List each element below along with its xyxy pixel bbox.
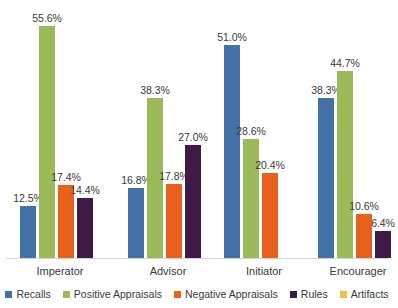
legend-swatch-icon — [340, 291, 347, 298]
bar-slot: 6.4% — [375, 0, 391, 258]
bar-group-bars: 12.5%55.6%17.4%14.4% — [20, 0, 100, 258]
bar-slot: 55.6% — [39, 0, 55, 258]
legend-label: Recalls — [16, 288, 50, 300]
legend-item[interactable]: Positive Appraisals — [63, 288, 162, 300]
legend-label: Artifacts — [351, 288, 389, 300]
bar[interactable]: 38.3% — [318, 98, 334, 258]
bar-group: 12.5%55.6%17.4%14.4% — [20, 0, 100, 258]
bar-slot — [294, 0, 304, 258]
bar-slot: 16.8% — [128, 0, 144, 258]
bar[interactable]: 6.4% — [375, 231, 391, 258]
bar-slot: 28.6% — [243, 0, 259, 258]
bar-slot — [281, 0, 291, 258]
legend-swatch-icon — [174, 291, 181, 298]
legend-swatch-icon — [5, 291, 12, 298]
legend-item[interactable]: Recalls — [5, 288, 50, 300]
category-label-imperator: Imperator — [20, 262, 100, 280]
x-axis-line — [6, 258, 388, 259]
bar-group: 16.8%38.3%17.8%27.0% — [128, 0, 208, 258]
category-label-advisor: Advisor — [128, 262, 208, 280]
bar-slot: 17.4% — [58, 0, 74, 258]
bar-slot — [394, 0, 398, 258]
bar-group: 38.3%44.7%10.6%6.4% — [318, 0, 398, 258]
legend-label: Positive Appraisals — [74, 288, 162, 300]
legend-label: Negative Appraisals — [185, 288, 278, 300]
bar-slot: 20.4% — [262, 0, 278, 258]
bar[interactable]: 10.6% — [356, 214, 372, 258]
bar[interactable]: 12.5% — [20, 206, 36, 258]
bar[interactable]: 16.8% — [128, 188, 144, 258]
bar-slot: 17.8% — [166, 0, 182, 258]
bar[interactable]: 17.4% — [58, 185, 74, 258]
legend-item[interactable]: Rules — [290, 288, 328, 300]
bar-slot: 44.7% — [337, 0, 353, 258]
bar-slot — [96, 0, 100, 258]
category-axis-labels: ImperatorAdvisorInitiatorEncourager — [0, 262, 394, 282]
bar[interactable]: 20.4% — [262, 173, 278, 258]
bar[interactable]: 55.6% — [39, 26, 55, 258]
chart-legend: RecallsPositive AppraisalsNegative Appra… — [0, 285, 394, 303]
bar-group: 51.0%28.6%20.4% — [224, 0, 304, 258]
bar-value-label: 6.4% — [371, 217, 395, 229]
bar[interactable]: 27.0% — [185, 145, 201, 258]
bar[interactable]: 51.0% — [224, 45, 240, 258]
legend-item[interactable]: Artifacts — [340, 288, 389, 300]
category-label-initiator: Initiator — [224, 262, 304, 280]
legend-swatch-icon — [63, 291, 70, 298]
legend-label: Rules — [301, 288, 328, 300]
bar[interactable]: 14.4% — [77, 198, 93, 258]
category-label-encourager: Encourager — [318, 262, 398, 280]
bar[interactable]: 28.6% — [243, 139, 259, 258]
bar-slot — [204, 0, 208, 258]
legend-item[interactable]: Negative Appraisals — [174, 288, 278, 300]
bar-group-bars: 38.3%44.7%10.6%6.4% — [318, 0, 398, 258]
bar[interactable]: 44.7% — [337, 71, 353, 258]
bar-slot: 12.5% — [20, 0, 36, 258]
bar-slot: 38.3% — [318, 0, 334, 258]
bar-slot: 27.0% — [185, 0, 201, 258]
bar-group-bars: 16.8%38.3%17.8%27.0% — [128, 0, 208, 258]
bar-slot: 14.4% — [77, 0, 93, 258]
bar-slot: 38.3% — [147, 0, 163, 258]
bar[interactable]: 17.8% — [166, 184, 182, 258]
bar-group-bars: 51.0%28.6%20.4% — [224, 0, 304, 258]
bar-slot: 10.6% — [356, 0, 372, 258]
legend-swatch-icon — [290, 291, 297, 298]
plot-area: 12.5%55.6%17.4%14.4%16.8%38.3%17.8%27.0%… — [0, 0, 394, 258]
